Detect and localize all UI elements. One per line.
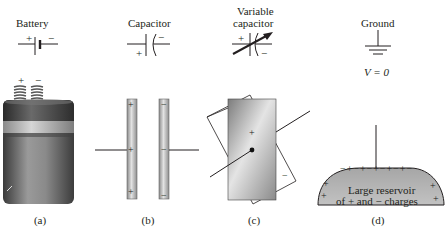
variable-capacitor-title-line1: Variable	[237, 5, 274, 17]
plate-negative-charge: −	[161, 190, 167, 202]
ground-title: Ground	[361, 17, 395, 29]
ground-symbol	[365, 30, 391, 54]
variable-capacitor-plates	[207, 95, 310, 204]
battery-illustration	[3, 86, 74, 204]
battery-symbol-plus: +	[26, 32, 32, 44]
plate-negative-charge: −	[161, 144, 167, 156]
battery-terminal-springs	[14, 86, 43, 99]
reservoir-edge-charges: −+−+−+−+−+−	[340, 163, 413, 175]
plate-positive-charge: +	[128, 186, 134, 198]
reservoir-charge-right: +	[433, 193, 439, 205]
plate-positive-charge: +	[128, 144, 134, 156]
rotating-plate-charge: −	[282, 170, 288, 182]
reservoir-charge-right: +	[430, 180, 436, 192]
plate-positive-charge: +	[128, 99, 134, 111]
capacitor-symbol-plus: +	[136, 47, 142, 59]
battery-terminal-minus: −	[35, 74, 41, 86]
capacitor-plates	[95, 99, 199, 199]
caption-a: (a)	[20, 214, 60, 226]
variable-capacitor-title-line2: capacitor	[233, 17, 273, 29]
variable-capacitor-symbol-minus: −	[261, 47, 267, 59]
battery-title: Battery	[16, 17, 48, 29]
reservoir-charge-left: +	[321, 190, 327, 202]
battery-symbol-minus: −	[48, 32, 54, 44]
reservoir-label-line2: of + and − charges	[336, 195, 418, 207]
capacitor-title: Capacitor	[128, 17, 171, 29]
capacitor-symbol-minus: −	[158, 31, 164, 43]
ground-equation: V = 0	[364, 66, 389, 78]
battery-terminal-plus: +	[18, 74, 24, 86]
fixed-plate-charge: +	[249, 127, 255, 139]
caption-d: (d)	[358, 214, 398, 226]
caption-c: (c)	[234, 214, 274, 226]
plate-negative-charge: −	[161, 99, 167, 111]
caption-b: (b)	[128, 214, 168, 226]
variable-capacitor-symbol-plus: +	[238, 32, 244, 44]
reservoir-charge-left: +	[323, 178, 329, 190]
